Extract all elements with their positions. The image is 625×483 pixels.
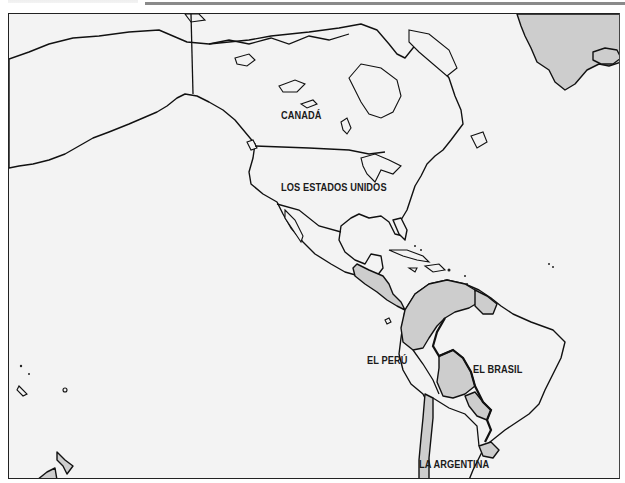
uruguay (479, 442, 499, 458)
puerto-rico (448, 269, 451, 272)
americas-map (9, 14, 620, 479)
hawaii-big (17, 386, 27, 396)
label-peru: EL PERÚ (367, 354, 408, 366)
aleutian-island (185, 14, 205, 22)
hawaii-dot-1 (20, 365, 22, 367)
label-usa: LOS ESTADOS UNIDOS (281, 181, 387, 193)
title-rule (145, 2, 625, 5)
atlantic-dot-1 (548, 263, 550, 265)
cuba (389, 250, 429, 262)
label-argentina: LA ARGENTINA (419, 458, 489, 470)
title-cropped (8, 0, 138, 3)
newfoundland (471, 132, 487, 148)
iceland (593, 48, 620, 64)
hawaii-island (63, 388, 67, 392)
new-zealand-north (57, 452, 73, 474)
new-zealand-south (37, 468, 57, 479)
galapagos (385, 318, 391, 324)
label-brazil: EL BRASIL (473, 363, 522, 375)
map-frame: CANADÁ LOS ESTADOS UNIDOS EL PERÚ EL BRA… (8, 13, 620, 479)
label-canada: CANADÁ (281, 109, 322, 121)
jamaica (409, 268, 417, 272)
lesser-antilles-dot-1 (464, 275, 466, 277)
bahamas-dot-2 (420, 249, 422, 251)
bahamas-dot-1 (414, 245, 416, 247)
hispaniola (425, 264, 445, 272)
hawaii-dot-2 (28, 373, 30, 375)
atlantic-dot-2 (552, 266, 554, 268)
